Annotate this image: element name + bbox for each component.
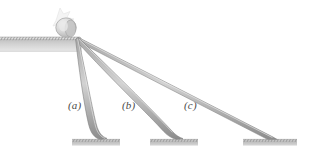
figure-canvas	[0, 0, 320, 157]
platform-c	[243, 139, 297, 145]
ball-highlight	[59, 20, 68, 31]
ramp-c	[77, 38, 278, 140]
upper-ledge	[0, 37, 82, 52]
roller-ball-group	[53, 8, 76, 37]
ramp-c-highlight	[78, 38, 272, 137]
ramp-label-c: (c)	[184, 99, 197, 111]
ramp-label-b: (b)	[122, 99, 135, 111]
ramp-label-a: (a)	[68, 99, 81, 111]
ledge-body	[0, 39, 82, 52]
platform-b	[150, 139, 198, 145]
platform-a	[72, 139, 120, 145]
physics-ramp-figure: (a) (b) (c)	[0, 0, 320, 157]
